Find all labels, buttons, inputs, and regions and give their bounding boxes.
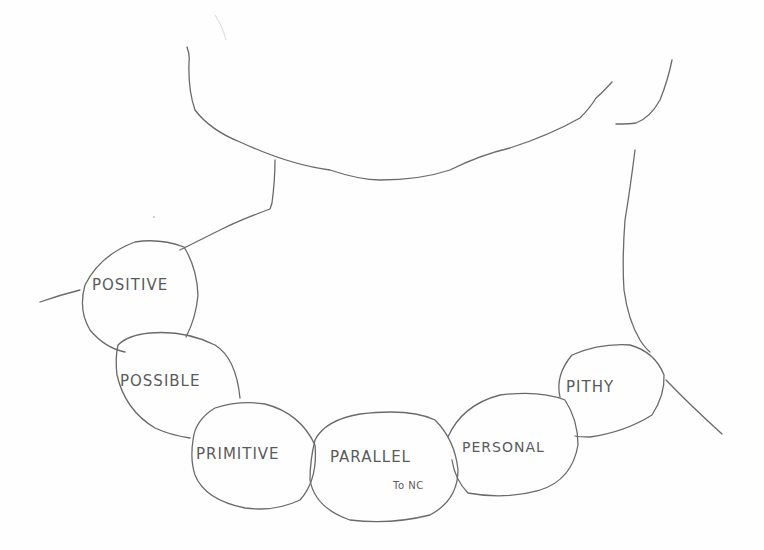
bead-sublabel-parallel: To NC (393, 481, 424, 491)
bead-label-positive: POSITIVE (92, 278, 168, 293)
bead-parallel-outline (310, 412, 458, 522)
left-neck-line (180, 160, 275, 250)
bead-label-possible: POSSIBLE (120, 374, 200, 389)
bead-label-pithy: PITHY (566, 380, 614, 395)
right-neck-line (623, 150, 650, 352)
bead-label-parallel: PARALLEL (330, 450, 411, 465)
right-jaw-outline (616, 60, 672, 124)
pencil-dot (153, 216, 155, 218)
pencil-smudge (215, 15, 226, 40)
left-shoulder-line (40, 290, 80, 302)
bead-label-personal: PERSONAL (462, 440, 545, 454)
neck-outline-drawing (0, 0, 764, 550)
sketch-canvas: POSITIVE POSSIBLE PRIMITIVE PARALLEL To … (0, 0, 764, 550)
chin-outline (187, 47, 612, 180)
bead-positive-outline (82, 241, 198, 352)
bead-label-primitive: PRIMITIVE (196, 447, 280, 462)
right-shoulder-line (666, 380, 722, 434)
